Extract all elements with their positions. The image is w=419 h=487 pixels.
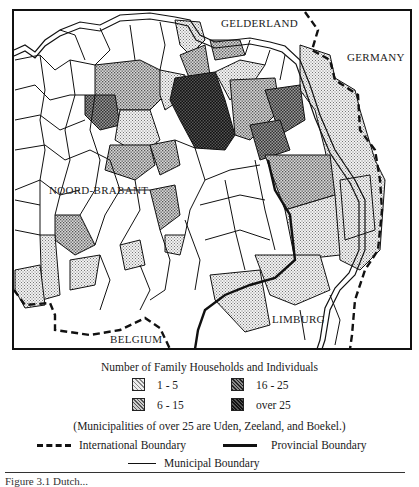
swatch-16-25 <box>231 378 244 391</box>
label-limburg: LIMBURG <box>272 313 325 325</box>
legend-item-16-25: 16 - 25 <box>231 378 289 391</box>
legend-title: Number of Family Households and Individu… <box>0 361 419 373</box>
map: GELDERLAND GERMANY NOORD-BRABANT BELGIUM… <box>0 0 419 356</box>
legend-label: 1 - 5 <box>157 379 178 391</box>
legend-label: International Boundary <box>79 439 186 451</box>
legend-label: 16 - 25 <box>256 379 289 391</box>
thick-line-icon <box>223 444 257 447</box>
swatch-over-25 <box>231 398 244 411</box>
swatch-1-5 <box>132 378 145 391</box>
thin-line-icon <box>128 463 156 464</box>
label-noord-brabant: NOORD-BRABANT <box>49 184 148 196</box>
legend-label: Municipal Boundary <box>164 457 260 469</box>
legend-label: 6 - 15 <box>157 399 184 411</box>
legend-item-6-15: 6 - 15 <box>132 398 184 411</box>
legend-label: over 25 <box>256 399 291 411</box>
boundary-legend: International Boundary Provincial Bounda… <box>0 439 419 455</box>
dashed-line-icon <box>37 444 71 447</box>
swatch-6-15 <box>132 398 145 411</box>
label-gelderland: GELDERLAND <box>221 17 298 29</box>
legend-item-over-25: over 25 <box>231 398 291 411</box>
caption-divider <box>5 472 405 473</box>
legend-label: Provincial Boundary <box>271 439 367 451</box>
legend-municipal-boundary: Municipal Boundary <box>128 457 260 469</box>
legend-provincial-boundary: Provincial Boundary <box>223 439 367 451</box>
legend-item-1-5: 1 - 5 <box>132 378 178 391</box>
legend-international-boundary: International Boundary <box>37 439 186 451</box>
label-germany: GERMANY <box>347 51 405 63</box>
figure-caption: Figure 3.1 Dutch... <box>5 475 88 487</box>
legend-note: (Municipalities of over 25 are Uden, Zee… <box>0 420 419 432</box>
municipal-boundary-legend: Municipal Boundary <box>0 457 419 471</box>
legend-categories: 1 - 5 6 - 15 16 - 25 over 25 <box>0 378 419 418</box>
label-belgium: BELGIUM <box>110 333 162 345</box>
